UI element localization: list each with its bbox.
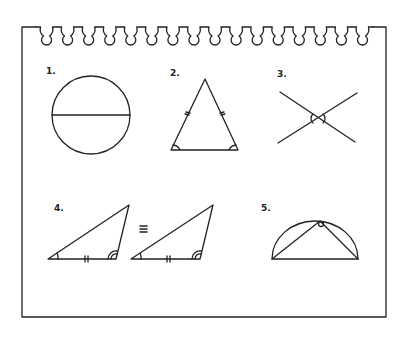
figure-label-2: 2. [170,68,180,78]
spiral-rings [36,27,373,45]
ring-loops [36,27,373,45]
figure-label-3: 3. [277,69,287,79]
notepad-frame [22,27,386,317]
figure-4-congruent-triangles [48,205,213,262]
notepad-diagram: 1. 2. 3. 4. 5. [0,0,407,337]
figure-2-isosceles-triangle [171,79,238,150]
figure-5-semicircle-triangle [272,221,358,259]
figure-3-intersecting-lines [278,92,357,143]
figure-label-5: 5. [261,203,271,213]
congruence-symbol [140,226,147,232]
figure-label-1: 1. [46,66,56,76]
figure-1-circle [52,76,130,154]
figure-label-4: 4. [54,203,64,213]
